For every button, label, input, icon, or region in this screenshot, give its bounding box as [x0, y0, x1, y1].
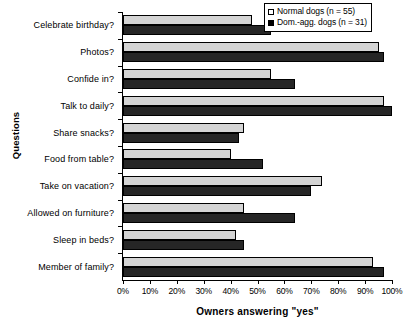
bar — [123, 203, 244, 213]
y-axis-tick — [118, 12, 123, 13]
bar — [123, 213, 295, 223]
category-label: Take on vacation? — [40, 181, 114, 191]
x-axis-tick — [365, 280, 366, 284]
category-label: Celebrate birthday? — [34, 20, 114, 30]
y-axis-tick — [118, 226, 123, 227]
bar — [123, 106, 392, 116]
bar — [123, 133, 239, 143]
x-axis-tick-label: 40% — [216, 286, 246, 296]
y-axis-tick — [118, 39, 123, 40]
legend-item-normal-dogs: Normal dogs (n = 55) — [268, 6, 367, 17]
bar-chart: Questions Celebrate birthday?Photos?Conf… — [0, 0, 403, 330]
x-axis-tick-label: 70% — [296, 286, 326, 296]
plot-area: 0%10%20%30%40%50%60%70%80%90%100% — [123, 12, 392, 280]
category-label: Member of family? — [38, 262, 114, 272]
x-axis-tick — [311, 280, 312, 284]
y-axis-tick — [118, 66, 123, 67]
bar — [123, 240, 244, 250]
y-axis-tick — [118, 119, 123, 120]
bar — [123, 96, 384, 106]
category-label: Share snacks? — [53, 128, 114, 138]
bar — [123, 69, 271, 79]
y-axis-tick — [118, 200, 123, 201]
category-label: Food from table? — [44, 154, 114, 164]
x-axis-tick-label: 100% — [377, 286, 403, 296]
x-axis-tick — [204, 280, 205, 284]
x-axis-tick-label: 10% — [135, 286, 165, 296]
category-label: Photos? — [80, 47, 114, 57]
x-axis-tick — [177, 280, 178, 284]
y-axis-tick — [118, 173, 123, 174]
x-axis-tick-label: 0% — [108, 286, 138, 296]
y-axis-tick — [118, 146, 123, 147]
x-axis-tick-label: 80% — [323, 286, 353, 296]
y-axis-tick — [118, 92, 123, 93]
bar — [123, 176, 322, 186]
x-axis-tick-label: 90% — [350, 286, 380, 296]
bar — [123, 186, 311, 196]
x-axis-tick-label: 60% — [269, 286, 299, 296]
filled-square-marker-icon — [268, 20, 274, 26]
x-axis-tick — [231, 280, 232, 284]
bar — [123, 15, 252, 25]
legend-item-dom-agg-dogs: Dom.-agg. dogs (n = 31) — [268, 17, 367, 28]
category-label: Allowed on furniture? — [27, 208, 114, 218]
category-label-list: Celebrate birthday?Photos?Confide in?Tal… — [0, 12, 118, 280]
open-square-marker-icon — [268, 9, 274, 15]
bar — [123, 79, 295, 89]
x-axis-tick-label: 20% — [162, 286, 192, 296]
category-label: Confide in? — [67, 74, 114, 84]
legend-label: Dom.-agg. dogs (n = 31) — [277, 17, 367, 28]
x-axis-tick — [284, 280, 285, 284]
bar — [123, 25, 271, 35]
category-label: Sleep in beds? — [53, 235, 114, 245]
x-axis-tick-label: 30% — [189, 286, 219, 296]
x-axis-tick — [123, 280, 124, 284]
category-label: Talk to daily? — [61, 101, 114, 111]
legend-label: Normal dogs (n = 55) — [277, 6, 355, 17]
bar — [123, 52, 384, 62]
x-axis-tick — [338, 280, 339, 284]
x-axis-tick-label: 50% — [243, 286, 273, 296]
bar — [123, 149, 231, 159]
x-axis-title: Owners answering "yes" — [123, 306, 392, 317]
x-axis-tick — [392, 280, 393, 284]
y-axis-tick — [118, 253, 123, 254]
bar — [123, 257, 373, 267]
bar — [123, 267, 384, 277]
legend: Normal dogs (n = 55) Dom.-agg. dogs (n =… — [264, 3, 372, 32]
bar — [123, 159, 263, 169]
x-axis-tick — [258, 280, 259, 284]
x-axis-tick — [150, 280, 151, 284]
bar — [123, 42, 379, 52]
bar — [123, 123, 244, 133]
bar — [123, 230, 236, 240]
